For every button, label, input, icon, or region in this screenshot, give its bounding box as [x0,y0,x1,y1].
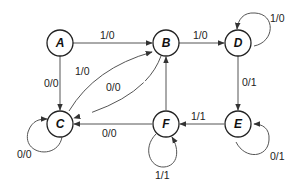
svg-text:A: A [55,36,65,50]
edge-b-d: 1/0 [179,29,224,43]
svg-text:0/0: 0/0 [44,77,59,89]
svg-text:1/1: 1/1 [191,110,206,122]
svg-text:0/0: 0/0 [17,148,32,160]
svg-text:1/0: 1/0 [75,65,90,77]
edge-d-e: 0/1 [238,56,257,110]
state-f: F [153,111,179,137]
svg-text:0/1: 0/1 [242,76,257,88]
svg-text:0/0: 0/0 [106,81,121,93]
svg-text:0/0: 0/0 [102,127,117,139]
svg-text:B: B [162,36,171,50]
svg-text:E: E [234,117,243,131]
state-diagram: 1/0 0/0 1/0 0/0 0/0 1/0 1/0 0/1 0/1 1/ [0,0,300,191]
state-a: A [47,30,73,56]
svg-text:0/1: 0/1 [270,150,285,162]
svg-text:1/0: 1/0 [100,29,115,41]
edge-a-b: 1/0 [73,29,152,43]
svg-text:1/0: 1/0 [193,29,208,41]
svg-text:1/0: 1/0 [270,12,285,24]
state-e: E [225,111,251,137]
svg-text:C: C [56,117,65,131]
edge-f-c: 0/0 [74,124,152,139]
state-c: C [47,111,73,137]
edge-e-f: 1/1 [180,110,224,124]
svg-text:F: F [162,117,170,131]
svg-text:1/1: 1/1 [155,169,170,181]
state-b: B [153,30,179,56]
edge-f-f: 1/1 [149,134,177,181]
state-d: D [225,30,251,56]
svg-text:D: D [234,36,243,50]
edge-a-c: 0/0 [44,56,60,110]
